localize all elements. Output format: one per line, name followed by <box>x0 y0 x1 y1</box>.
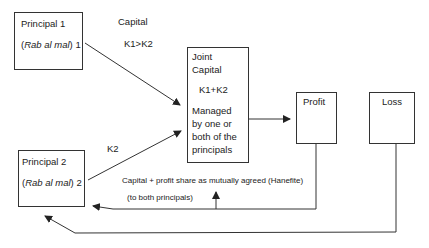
loss-box: Loss <box>369 92 415 144</box>
to-both-principals-label: (to both principals) <box>127 192 193 204</box>
principal-2-title: Principal 2 <box>22 156 66 168</box>
k2-label: K2 <box>107 143 119 155</box>
joint-desc-2: by one or <box>192 118 232 130</box>
joint-capital-box: Joint Capital K1+K2 Managed by one or bo… <box>187 47 249 163</box>
paren-close-2: ) 2 <box>71 177 82 188</box>
joint-desc-1: Managed <box>192 105 232 117</box>
rab-al-mal-italic: Rab al mal <box>25 177 70 188</box>
arrow-p2-to-joint <box>88 131 181 180</box>
share-note-label: Capital + profit share as mutually agree… <box>122 175 303 187</box>
profit-box: Profit <box>296 92 337 144</box>
k1-gt-k2-label: K1>K2 <box>124 38 153 50</box>
joint-desc-4: principals <box>192 144 232 156</box>
capital-label: Capital <box>118 16 148 28</box>
paren-close-1: ) 1 <box>70 39 81 50</box>
principal-1-box: Principal 1 (Rab al mal) 1 <box>14 12 83 70</box>
arrow-p1-to-joint <box>85 43 180 105</box>
joint-label-line2: Capital <box>192 64 222 76</box>
loss-label: Loss <box>382 96 402 108</box>
joint-desc-3: both of the <box>192 131 237 143</box>
principal-1-title: Principal 1 <box>21 18 65 30</box>
joint-label-line1: Joint <box>192 51 212 63</box>
principal-2-subtitle: (Rab al mal) 2 <box>22 177 82 189</box>
principal-2-box: Principal 2 (Rab al mal) 2 <box>18 150 85 207</box>
profit-label: Profit <box>303 96 325 108</box>
principal-1-subtitle: (Rab al mal) 1 <box>21 39 81 51</box>
rab-al-mal-italic: Rab al mal <box>24 39 69 50</box>
joint-formula: K1+K2 <box>199 84 228 96</box>
